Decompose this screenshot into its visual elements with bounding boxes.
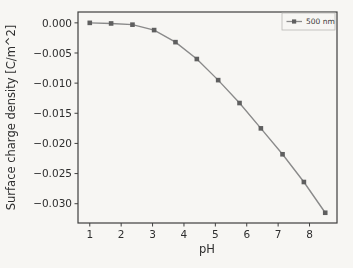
data-point-marker [152, 28, 157, 33]
data-point-marker [87, 21, 92, 26]
data-point-marker [216, 78, 221, 83]
y-tick-label: −0.020 [33, 137, 72, 149]
legend-label: 500 nm [306, 17, 335, 26]
data-point-marker [280, 152, 285, 157]
line-chart: 123456780.000−0.005−0.010−0.015−0.020−0.… [0, 0, 353, 268]
y-tick-label: −0.025 [33, 167, 72, 179]
y-tick-label: −0.010 [33, 77, 72, 89]
plot-layer: 123456780.000−0.005−0.010−0.015−0.020−0.… [33, 17, 327, 240]
figure: 123456780.000−0.005−0.010−0.015−0.020−0.… [0, 0, 353, 268]
y-tick-label: −0.015 [33, 107, 72, 119]
x-tick-label: 1 [86, 228, 93, 240]
x-tick-label: 6 [243, 228, 250, 240]
data-point-marker [237, 101, 242, 106]
y-tick-label: 0.000 [42, 17, 72, 29]
x-tick-label: 4 [181, 228, 188, 240]
data-point-marker [259, 126, 264, 131]
y-tick-label: −0.030 [33, 197, 72, 209]
x-tick-label: 2 [118, 228, 125, 240]
legend: 500 nm [282, 13, 335, 30]
x-tick-label: 7 [275, 228, 282, 240]
x-tick-label: 8 [306, 228, 313, 240]
x-tick-label: 3 [149, 228, 156, 240]
data-point-marker [130, 22, 135, 27]
data-point-marker [195, 57, 200, 62]
data-point-marker [323, 210, 328, 215]
x-tick-label: 5 [212, 228, 219, 240]
legend-square-marker-icon [292, 19, 296, 23]
data-point-marker [302, 180, 307, 185]
x-axis-label: pH [199, 242, 215, 256]
plot-border [78, 12, 337, 223]
data-point-marker [109, 21, 114, 26]
y-axis-label: Surface charge density [C/m^2] [4, 25, 18, 211]
series-line [90, 23, 325, 213]
y-tick-label: −0.005 [33, 47, 72, 59]
data-point-marker [173, 40, 178, 45]
